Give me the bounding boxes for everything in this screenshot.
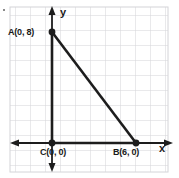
- vertex-c-marker: [49, 140, 56, 147]
- vertex-c-label: C(0, 0): [40, 148, 66, 157]
- vertex-a-marker: [49, 29, 56, 36]
- coordinate-plane-figure: A(0, 8) C(0, 0) B(6, 0) y x: [0, 0, 179, 178]
- vertex-b-marker: [133, 140, 140, 147]
- y-axis-label: y: [60, 7, 66, 18]
- vertex-b-label: B(6, 0): [113, 148, 139, 157]
- vertex-a-label: A(0, 8): [8, 28, 34, 37]
- x-axis-label: x: [159, 143, 165, 154]
